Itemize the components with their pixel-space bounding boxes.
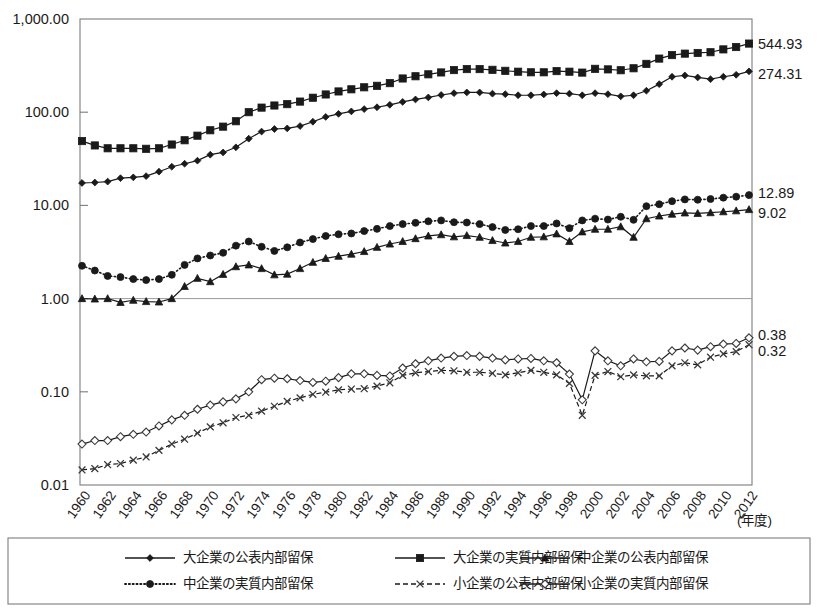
- data-point-marker-diamond-filled: [605, 91, 612, 98]
- data-point-marker-circle-filled: [220, 249, 227, 256]
- data-point-marker-triangle-filled: [463, 232, 470, 239]
- data-point-marker-diamond-filled: [271, 126, 278, 133]
- data-point-marker-diamond-filled: [91, 179, 98, 186]
- data-point-marker-square-filled: [527, 69, 534, 76]
- data-point-marker-square-filled: [515, 68, 522, 75]
- y-tick-label: 0.01: [41, 477, 69, 493]
- data-point-marker-square-filled: [258, 104, 265, 111]
- data-point-marker-circle-filled: [79, 262, 86, 269]
- data-point-marker-x: [297, 395, 304, 402]
- y-tick-label: 100.00: [25, 104, 69, 120]
- x-tick-label: 1960: [64, 488, 94, 521]
- data-point-marker-diamond-open: [347, 370, 355, 378]
- data-point-marker-circle-filled: [438, 217, 445, 224]
- data-point-marker-x: [579, 412, 586, 419]
- data-point-marker-square-filled: [386, 80, 393, 87]
- data-point-marker-circle-filled: [348, 230, 355, 237]
- data-point-marker-circle-filled: [707, 196, 714, 203]
- data-point-marker-circle-filled: [386, 223, 393, 230]
- data-point-marker-diamond-open: [514, 355, 522, 363]
- legend-box: [8, 538, 810, 604]
- data-point-marker-x: [566, 380, 573, 387]
- data-point-marker-triangle-filled: [437, 231, 444, 238]
- end-value-label: 0.32: [758, 343, 786, 359]
- end-value-label: 9.02: [758, 205, 786, 221]
- data-point-marker-circle-filled: [643, 203, 650, 210]
- data-point-marker-diamond-open: [450, 352, 458, 360]
- end-value-label: 274.31: [758, 66, 802, 82]
- data-point-marker-diamond-filled: [553, 90, 560, 97]
- data-point-marker-x: [130, 457, 137, 464]
- data-point-marker-square-filled: [335, 88, 342, 95]
- x-tick-label: 1994: [500, 488, 530, 522]
- data-point-marker-x: [605, 368, 612, 375]
- data-point-marker-diamond-filled: [361, 106, 368, 113]
- data-point-marker-square-filled: [143, 145, 150, 152]
- data-point-marker-diamond-open: [116, 433, 124, 441]
- data-point-marker-circle-filled: [168, 271, 175, 278]
- data-point-marker-circle-filled: [720, 194, 727, 201]
- data-point-marker-circle-filled: [117, 274, 124, 281]
- data-point-marker-diamond-filled: [284, 125, 291, 132]
- data-point-marker-diamond-filled: [143, 173, 150, 180]
- data-point-marker-circle-filled: [399, 221, 406, 228]
- data-point-marker-square-filled: [733, 43, 740, 50]
- x-tick-label: 2000: [577, 488, 607, 521]
- data-point-marker-diamond-open: [476, 352, 484, 360]
- data-point-marker-diamond-open: [424, 357, 432, 365]
- data-point-marker-diamond-filled: [707, 76, 714, 83]
- data-point-marker-circle-filled: [91, 267, 98, 274]
- data-point-marker-x: [592, 372, 599, 379]
- data-point-marker-square-filled: [399, 75, 406, 82]
- data-point-marker-circle-filled: [335, 231, 342, 238]
- data-point-marker-diamond-filled: [207, 151, 214, 158]
- data-point-marker-square-filled: [296, 98, 303, 105]
- x-tick-label: 2008: [680, 488, 710, 521]
- data-point-marker-diamond-open: [373, 371, 381, 379]
- data-point-marker-square-filled: [540, 69, 547, 76]
- series-line: [82, 338, 749, 444]
- data-point-marker-circle-filled: [450, 219, 457, 226]
- legend-label: 小企業の公表内部留保: [453, 575, 584, 591]
- data-point-marker-x: [220, 419, 227, 426]
- data-point-marker-square-filled: [502, 67, 509, 74]
- data-point-marker-square-filled: [361, 84, 368, 91]
- data-point-marker-square-filled: [591, 65, 598, 72]
- data-point-marker-diamond-filled: [528, 92, 535, 99]
- data-point-marker-circle-filled: [540, 223, 547, 230]
- data-point-marker-triangle-filled: [245, 261, 252, 268]
- data-point-marker-diamond-filled: [156, 168, 163, 175]
- data-point-marker-square-filled: [117, 145, 124, 152]
- data-point-marker-diamond-open: [322, 377, 330, 385]
- data-point-marker-square-filled: [219, 123, 226, 130]
- data-point-marker-circle-filled: [207, 252, 214, 259]
- data-point-marker-diamond-open: [707, 343, 715, 351]
- data-point-marker-square-filled: [656, 55, 663, 62]
- data-point-marker-diamond-filled: [592, 90, 599, 97]
- data-point-marker-diamond-open: [296, 377, 304, 385]
- x-tick-label: 1988: [423, 488, 453, 521]
- data-point-marker-diamond-open: [437, 354, 445, 362]
- data-point-marker-square-filled: [668, 51, 675, 58]
- data-point-marker-triangle-filled: [296, 265, 303, 272]
- data-point-marker-circle-filled: [566, 225, 573, 232]
- data-point-marker-diamond-filled: [438, 92, 445, 99]
- data-point-marker-circle-filled: [245, 238, 252, 245]
- x-tick-label: 1978: [295, 488, 325, 521]
- data-point-marker-diamond-filled: [297, 123, 304, 130]
- data-point-marker-triangle-filled: [194, 274, 201, 281]
- data-point-marker-circle-filled: [194, 255, 201, 262]
- data-point-marker-circle-filled: [669, 198, 676, 205]
- data-point-marker-diamond-filled: [540, 91, 547, 98]
- x-tick-label: 1992: [474, 488, 504, 521]
- data-point-marker-x: [309, 391, 316, 398]
- data-point-marker-diamond-open: [501, 356, 509, 364]
- data-point-marker-x: [143, 454, 150, 461]
- x-tick-label: 1966: [141, 488, 171, 521]
- data-point-marker-circle-filled: [130, 276, 137, 283]
- data-point-marker-circle-filled: [681, 196, 688, 203]
- data-point-marker-circle-filled: [155, 276, 162, 283]
- data-point-marker-circle-filled: [604, 216, 611, 223]
- data-point-marker-diamond-open: [527, 354, 535, 362]
- data-point-marker-square-filled: [207, 127, 214, 134]
